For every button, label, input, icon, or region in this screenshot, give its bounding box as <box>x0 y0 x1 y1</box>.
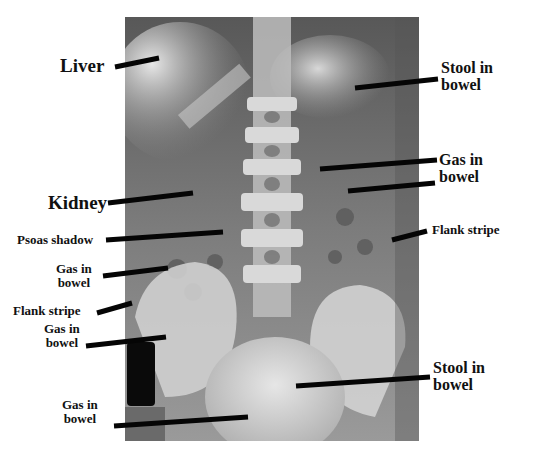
label-stool-in-bowel-top: Stool in bowel <box>441 60 493 94</box>
label-line2: bowel <box>441 77 493 94</box>
label-line1: Gas in <box>439 152 483 169</box>
label-line2: bowel <box>44 336 80 350</box>
label-line2: bowel <box>439 169 483 186</box>
label-liver: Liver <box>60 56 104 76</box>
label-kidney: Kidney <box>48 193 107 213</box>
label-line1: Stool in <box>433 360 485 377</box>
label-psoas-shadow: Psoas shadow <box>17 233 93 247</box>
label-flank-stripe-right: Flank stripe <box>432 223 500 237</box>
label-flank-stripe-left: Flank stripe <box>13 304 81 318</box>
label-line2: bowel <box>56 276 92 290</box>
label-line2: bowel <box>433 377 485 394</box>
label-gas-in-bowel-bottom: Gas in bowel <box>62 398 98 425</box>
label-line1: Stool in <box>441 60 493 77</box>
label-stool-in-bowel-bottom: Stool in bowel <box>433 360 485 394</box>
abdominal-xray-image <box>125 17 419 441</box>
label-line1: Gas in <box>56 262 92 276</box>
label-line2: bowel <box>62 412 98 426</box>
label-gas-in-bowel-left-2: Gas in bowel <box>44 322 80 349</box>
label-line1: Gas in <box>44 322 80 336</box>
label-gas-in-bowel-right: Gas in bowel <box>439 152 483 186</box>
label-line1: Gas in <box>62 398 98 412</box>
label-gas-in-bowel-left-1: Gas in bowel <box>56 262 92 289</box>
